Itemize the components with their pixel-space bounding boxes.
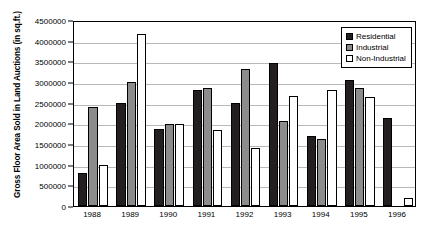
bar-group <box>116 22 146 206</box>
x-tick-label: 1991 <box>197 210 215 219</box>
x-tick-label: 1989 <box>121 210 139 219</box>
legend-item-industrial: Industrial <box>346 42 406 53</box>
bar-nonindustrial-1996 <box>404 198 413 206</box>
y-tick-label: 500000 <box>0 182 66 191</box>
x-tick-label: 1994 <box>312 210 330 219</box>
bar-industrial-1988 <box>88 107 97 206</box>
y-tick-label: 4000000 <box>0 37 66 46</box>
y-tick-label: 3500000 <box>0 58 66 67</box>
bar-nonindustrial-1990 <box>175 124 184 206</box>
bar-group <box>154 22 184 206</box>
legend-label: Industrial <box>356 43 388 52</box>
x-tick-label: 1992 <box>236 210 254 219</box>
bar-industrial-1995 <box>355 88 364 206</box>
bar-residential-1992 <box>231 103 240 206</box>
x-tick-label: 1996 <box>388 210 406 219</box>
legend-label: Non-Industrial <box>356 54 406 63</box>
bar-nonindustrial-1993 <box>289 96 298 206</box>
bar-nonindustrial-1991 <box>213 130 222 206</box>
legend-item-residential: Residential <box>346 31 406 42</box>
bar-residential-1989 <box>116 103 125 206</box>
bar-group <box>307 22 337 206</box>
bar-residential-1996 <box>383 118 392 206</box>
bar-nonindustrial-1994 <box>327 90 336 206</box>
x-tick-label: 1995 <box>350 210 368 219</box>
bar-industrial-1991 <box>203 88 212 206</box>
bar-residential-1993 <box>269 63 278 206</box>
x-axis-tick-labels: 198819891990199119921993199419951996 <box>73 210 416 230</box>
legend-swatch-icon <box>346 44 353 51</box>
bar-industrial-1989 <box>127 82 136 206</box>
bar-industrial-1992 <box>241 69 250 206</box>
y-tick-label: 2000000 <box>0 120 66 129</box>
bar-residential-1995 <box>345 80 354 206</box>
legend-swatch-icon <box>346 55 353 62</box>
bar-industrial-1993 <box>279 121 288 206</box>
x-tick-label: 1988 <box>83 210 101 219</box>
y-tick-label: 3000000 <box>0 79 66 88</box>
legend-swatch-icon <box>346 33 353 40</box>
y-tick-label: 4500000 <box>0 17 66 26</box>
y-tick-label: 1000000 <box>0 161 66 170</box>
bar-group <box>269 22 299 206</box>
x-tick-label: 1990 <box>159 210 177 219</box>
bar-residential-1990 <box>154 129 163 206</box>
bar-nonindustrial-1995 <box>365 97 374 206</box>
x-tick-label: 1993 <box>274 210 292 219</box>
chart-legend: ResidentialIndustrialNon-Industrial <box>341 27 412 68</box>
bar-residential-1988 <box>78 173 87 206</box>
bar-industrial-1994 <box>317 139 326 206</box>
y-tick-label: 0 <box>0 203 66 212</box>
y-tick-label: 2500000 <box>0 99 66 108</box>
bar-residential-1994 <box>307 136 316 206</box>
bar-group <box>193 22 223 206</box>
bar-group <box>78 22 108 206</box>
legend-item-nonindustrial: Non-Industrial <box>346 53 406 64</box>
bar-industrial-1990 <box>165 124 174 206</box>
bar-nonindustrial-1992 <box>251 148 260 206</box>
bar-chart-figure: Gross Floor Area Sold in Land Auctions (… <box>0 0 446 246</box>
y-tick-label: 1500000 <box>0 141 66 150</box>
bar-nonindustrial-1989 <box>137 34 146 206</box>
bar-nonindustrial-1988 <box>99 165 108 206</box>
bar-residential-1991 <box>193 90 202 206</box>
legend-label: Residential <box>356 32 396 41</box>
bar-group <box>231 22 261 206</box>
